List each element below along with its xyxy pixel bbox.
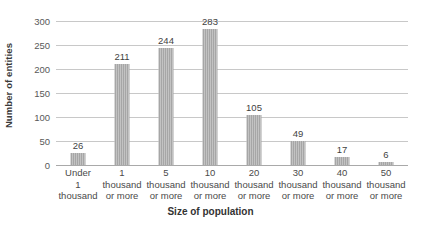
bar-value-label: 17 [337, 144, 348, 155]
bar-slot: 211 [100, 21, 144, 165]
x-tick-label-line: thousand [358, 179, 414, 191]
y-tick-label: 250 [34, 40, 50, 51]
y-tick-label: 200 [34, 64, 50, 75]
x-tick-label-line: or more [358, 190, 414, 202]
plot-area: 2621124428310549176 [56, 21, 408, 165]
bar-chart: Number of entities 050100150200250300 26… [0, 0, 421, 233]
y-tick-label: 300 [34, 16, 50, 27]
bar-value-label: 244 [158, 35, 174, 46]
bar[interactable] [247, 115, 262, 165]
y-tick-label: 150 [34, 88, 50, 99]
bar-slot: 26 [56, 21, 100, 165]
bar[interactable] [335, 157, 350, 165]
axis-baseline [56, 165, 408, 166]
x-tick-label-line: 50 [358, 167, 414, 179]
bar-value-label: 211 [114, 51, 129, 62]
bars-layer: 2621124428310549176 [56, 21, 408, 165]
bar[interactable] [291, 141, 306, 165]
y-axis-title: Number of entities [0, 0, 18, 170]
y-tick-label: 50 [39, 136, 50, 147]
x-axis-title: Size of population [0, 206, 421, 217]
y-tick-label: 100 [34, 112, 50, 123]
bar-value-label: 26 [73, 140, 84, 151]
bar-value-label: 49 [293, 128, 304, 139]
bar-slot: 244 [144, 21, 188, 165]
bar[interactable] [71, 153, 86, 165]
bar[interactable] [379, 162, 394, 165]
bar[interactable] [115, 64, 130, 165]
x-axis-tick-labels: Under1thousand1thousandor more5thousando… [56, 167, 408, 209]
bar[interactable] [203, 29, 218, 165]
bar-slot: 6 [364, 21, 408, 165]
y-axis-title-text: Number of entities [4, 42, 15, 127]
bar-value-label: 6 [383, 149, 388, 160]
x-tick-label: 50thousandor more [358, 167, 414, 202]
bar-slot: 49 [276, 21, 320, 165]
bar[interactable] [159, 48, 174, 165]
y-axis-tick-labels: 050100150200250300 [18, 0, 54, 180]
bar-value-label: 283 [202, 16, 218, 27]
bar-slot: 17 [320, 21, 364, 165]
bar-slot: 105 [232, 21, 276, 165]
bar-slot: 283 [188, 21, 232, 165]
bar-value-label: 105 [246, 102, 262, 113]
